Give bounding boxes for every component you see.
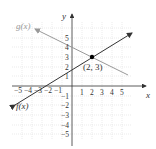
svg-text:−4: −4: [24, 86, 32, 95]
svg-text:−5: −5: [61, 130, 69, 139]
svg-text:−2: −2: [44, 86, 52, 95]
intersection-point: [90, 55, 94, 59]
x-axis-label: x: [145, 90, 150, 100]
svg-text:5: 5: [65, 34, 69, 43]
svg-text:2: 2: [90, 88, 94, 97]
svg-text:−3: −3: [34, 86, 42, 95]
y-axis-label: y: [61, 11, 66, 21]
svg-text:1: 1: [80, 88, 84, 97]
svg-text:4: 4: [65, 43, 69, 52]
svg-text:−2: −2: [61, 101, 69, 110]
svg-text:4: 4: [110, 88, 114, 97]
svg-text:1: 1: [65, 72, 69, 81]
svg-text:5: 5: [120, 88, 124, 97]
g-label: g(x): [16, 21, 31, 31]
svg-text:−4: −4: [61, 121, 69, 130]
f-line: [15, 33, 132, 105]
point-label: (2, 3): [83, 62, 103, 72]
svg-text:−3: −3: [61, 111, 69, 120]
g-line: [35, 29, 128, 75]
f-label: f(x): [16, 101, 29, 111]
svg-text:−5: −5: [14, 86, 22, 95]
svg-text:−1: −1: [61, 92, 69, 101]
svg-text:3: 3: [65, 53, 69, 62]
svg-text:3: 3: [100, 88, 104, 97]
coordinate-plane: (2, 3) g(x) f(x) x y −5 −4 −3 −2 −1 1 2 …: [0, 0, 156, 149]
svg-text:2: 2: [65, 63, 69, 72]
